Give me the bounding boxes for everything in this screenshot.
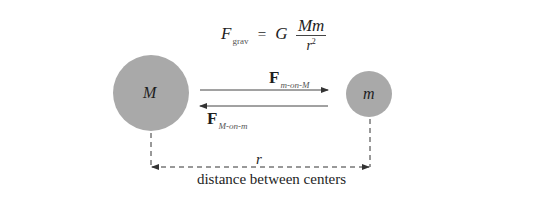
formula-fraction: Mm r2 bbox=[296, 17, 326, 53]
formula-denominator-exponent: 2 bbox=[312, 37, 316, 46]
force-m-on-M-subscript: m-on-M bbox=[280, 80, 309, 90]
force-M-on-m-label: FM-on-m bbox=[207, 110, 247, 131]
distance-caption: distance between centers bbox=[0, 172, 539, 187]
mass-m-label: m bbox=[363, 86, 375, 102]
formula-denominator: r2 bbox=[296, 36, 326, 53]
formula-constant: G bbox=[275, 24, 287, 43]
force-m-on-M-label: Fm-on-M bbox=[269, 69, 309, 90]
gravity-formula: Fgrav = G Mm r2 bbox=[221, 17, 326, 53]
distance-caption-text: distance between centers bbox=[197, 171, 346, 187]
formula-numerator: Mm bbox=[296, 17, 326, 36]
force-M-on-m-symbol: F bbox=[207, 109, 217, 128]
force-m-on-M-symbol: F bbox=[269, 68, 279, 87]
mass-M-label: M bbox=[143, 85, 156, 101]
formula-lhs-subscript: grav bbox=[232, 36, 248, 46]
force-M-on-m-subscript: M-on-m bbox=[218, 121, 247, 131]
formula-lhs-symbol: F bbox=[221, 24, 231, 43]
formula-equals: = bbox=[258, 26, 266, 42]
distance-symbol: r bbox=[256, 152, 262, 167]
